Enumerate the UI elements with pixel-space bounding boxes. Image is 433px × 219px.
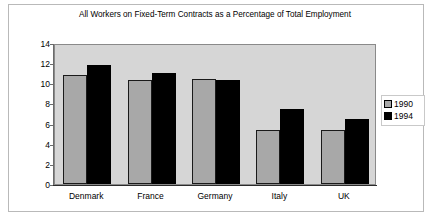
x-axis-label-italy: Italy: [247, 191, 311, 201]
legend-label-1994: 1994: [394, 111, 413, 121]
bar-italy-1994[interactable]: [280, 109, 304, 184]
y-tick-label: 12: [12, 59, 50, 69]
bar-germany-1990[interactable]: [192, 79, 216, 184]
legend-swatch-icon-1994: [384, 112, 392, 120]
bar-france-1990[interactable]: [128, 80, 152, 184]
y-tick-label: 8: [12, 99, 50, 109]
bar-uk-1990[interactable]: [321, 130, 345, 184]
x-axis-line: [53, 185, 377, 186]
bar-denmark-1994[interactable]: [87, 65, 111, 184]
bar-denmark-1990[interactable]: [63, 75, 87, 184]
legend-label-1990: 1990: [394, 99, 413, 109]
plot-area: [54, 44, 376, 185]
bar-germany-1994[interactable]: [216, 80, 240, 184]
bar-france-1994[interactable]: [152, 73, 176, 184]
y-axis-ticks: 02468101214: [9, 5, 50, 219]
y-tick-label: 4: [12, 140, 50, 150]
chart-legend: 1990 1994: [381, 95, 425, 126]
x-axis-label-denmark: Denmark: [54, 191, 118, 201]
legend-item-1990[interactable]: 1990: [384, 98, 422, 110]
chart-title: All Workers on Fixed-Term Contracts as a…: [57, 10, 373, 21]
y-tick-label: 10: [12, 79, 50, 89]
legend-swatch-icon-1990: [384, 100, 392, 108]
y-tick-label: 0: [12, 180, 50, 190]
x-axis-label-france: France: [118, 191, 182, 201]
bar-uk-1994[interactable]: [345, 119, 369, 184]
x-axis-label-germany: Germany: [183, 191, 247, 201]
legend-item-1994[interactable]: 1994: [384, 110, 422, 122]
y-tick-label: 6: [12, 120, 50, 130]
y-tick-label: 2: [12, 160, 50, 170]
x-axis-label-uk: UK: [312, 191, 376, 201]
bar-italy-1990[interactable]: [256, 130, 280, 184]
chart-frame: All Workers on Fixed-Term Contracts as a…: [8, 4, 424, 212]
y-tick-label: 14: [12, 39, 50, 49]
